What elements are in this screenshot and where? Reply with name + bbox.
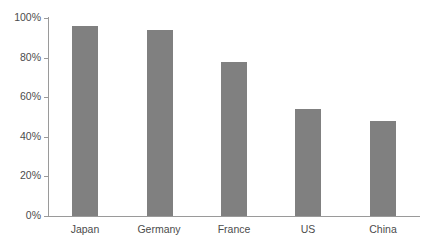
y-axis-tick-label: 0% [0, 210, 41, 221]
bar [221, 62, 247, 216]
y-axis-tick-mark [44, 18, 49, 19]
y-axis-tick-label: 100% [0, 12, 41, 23]
x-axis-category-label: China [346, 223, 420, 236]
bar-chart: 0%20%40%60%80%100% JapanGermanyFranceUSC… [0, 0, 428, 246]
x-axis-category-label: Germany [122, 223, 196, 236]
bar [72, 26, 98, 216]
x-axis-category-label: US [271, 223, 345, 236]
x-axis-line [48, 216, 420, 217]
x-axis-category-label: France [197, 223, 271, 236]
bar [295, 109, 321, 216]
y-axis-tick-mark [44, 97, 49, 98]
y-axis-tick-label: 40% [0, 131, 41, 142]
y-axis-tick-label: 60% [0, 91, 41, 102]
bar [370, 121, 396, 216]
y-axis-tick-mark [44, 176, 49, 177]
bar [147, 30, 173, 216]
y-axis-line [48, 17, 49, 217]
y-axis-tick-mark [44, 216, 49, 217]
y-axis-tick-mark [44, 137, 49, 138]
y-axis-tick-label: 80% [0, 52, 41, 63]
y-axis-tick-label: 20% [0, 170, 41, 181]
x-axis-category-label: Japan [48, 223, 122, 236]
y-axis-tick-mark [44, 58, 49, 59]
plot-area: 0%20%40%60%80%100% JapanGermanyFranceUSC… [0, 0, 428, 246]
